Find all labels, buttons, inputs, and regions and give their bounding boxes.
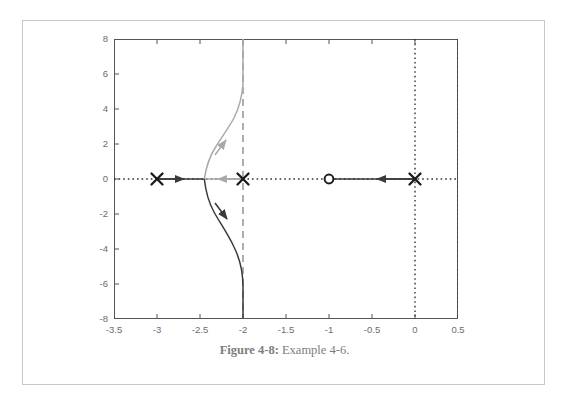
xtick-label-3: -2 (239, 325, 247, 335)
xtick-label-1: -3 (153, 325, 161, 335)
ytick-label-minus-4: -4 (88, 244, 108, 254)
xtick-label-5: -1 (325, 325, 333, 335)
figure-frame: -3.5 -3 -2.5 -2 -1.5 -1 -0.5 0 0.5 8 6 4… (22, 20, 545, 385)
xtick-label-2: -2.5 (192, 325, 208, 335)
ytick-label-2: 2 (88, 139, 108, 149)
xtick-label-0: -3.5 (106, 325, 122, 335)
plot-canvas (114, 39, 458, 319)
root-locus-plot: -3.5 -3 -2.5 -2 -1.5 -1 -0.5 0 0.5 8 6 4… (114, 39, 458, 319)
xtick-label-7: 0 (412, 325, 417, 335)
ytick-label-minus-6: -6 (88, 279, 108, 289)
xtick-label-8: 0.5 (451, 325, 464, 335)
ytick-label-minus-8: -8 (88, 314, 108, 324)
upper-branch-arrow (215, 140, 226, 155)
ytick-label-0: 0 (88, 174, 108, 184)
ytick-label-8: 8 (88, 34, 108, 44)
zero-marker-minus-1 (325, 175, 334, 184)
ytick-label-4: 4 (88, 104, 108, 114)
upper-locus-branch (204, 39, 243, 179)
xtick-label-6: -0.5 (364, 325, 380, 335)
ytick-label-minus-2: -2 (88, 209, 108, 219)
caption-prefix: Figure 4-8: (220, 343, 279, 357)
figure-caption: Figure 4-8: Example 4-6. (23, 343, 546, 358)
lower-locus-branch (204, 179, 243, 319)
ytick-label-6: 6 (88, 69, 108, 79)
caption-text: Example 4-6. (282, 343, 349, 357)
xtick-label-4: -1.5 (278, 325, 294, 335)
